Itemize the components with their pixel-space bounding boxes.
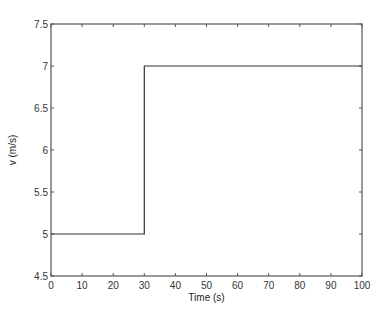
y-tick-label: 6.5 bbox=[34, 103, 48, 114]
x-tick-label: 90 bbox=[325, 280, 337, 291]
y-tick-labels: 4.555.566.577.5 bbox=[34, 19, 48, 282]
x-tick-labels: 0102030405060708090100 bbox=[48, 280, 371, 291]
y-tick-label: 5.5 bbox=[34, 187, 48, 198]
x-tick-label: 80 bbox=[294, 280, 306, 291]
x-tick-label: 0 bbox=[48, 280, 54, 291]
series-line-v bbox=[51, 66, 362, 234]
y-tick-label: 6 bbox=[42, 145, 48, 156]
x-tick-label: 10 bbox=[77, 280, 89, 291]
y-tick-label: 4.5 bbox=[34, 271, 48, 282]
y-axis-label: v (m/s) bbox=[7, 135, 18, 166]
data-series bbox=[51, 66, 362, 234]
y-tick-label: 5 bbox=[42, 229, 48, 240]
x-tick-label: 60 bbox=[232, 280, 244, 291]
x-axis-label: Time (s) bbox=[188, 292, 224, 303]
axis-ticks bbox=[51, 24, 362, 276]
x-tick-label: 20 bbox=[108, 280, 120, 291]
plot-area-frame bbox=[51, 24, 362, 276]
x-tick-label: 30 bbox=[139, 280, 151, 291]
step-chart: 0102030405060708090100 4.555.566.577.5 T… bbox=[0, 0, 387, 316]
x-tick-label: 70 bbox=[263, 280, 275, 291]
x-tick-label: 100 bbox=[354, 280, 371, 291]
x-tick-label: 40 bbox=[170, 280, 182, 291]
y-tick-label: 7.5 bbox=[34, 19, 48, 30]
y-tick-label: 7 bbox=[42, 61, 48, 72]
x-tick-label: 50 bbox=[201, 280, 213, 291]
